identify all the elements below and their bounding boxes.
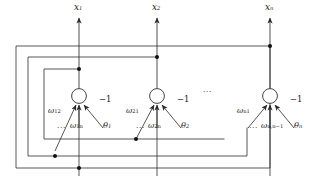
threshold-label-thetan: θn bbox=[294, 121, 302, 129]
output-label-x2: x2 bbox=[152, 3, 160, 12]
weight-label-w21: ω21 bbox=[126, 107, 139, 115]
neuron-input-stems bbox=[79, 106, 270, 176]
junction-bottom-outer bbox=[77, 166, 81, 170]
weight-label-w1n: ω1n bbox=[70, 122, 83, 130]
output-label-x1: x1 bbox=[74, 3, 82, 12]
inter-neuron-ellipsis: ... bbox=[203, 86, 212, 94]
threshold-label-theta1: θ1 bbox=[103, 121, 111, 129]
threshold-label-theta2: θ2 bbox=[181, 121, 189, 129]
hopfield-network-diagram: x1 x2 xn ω12 ... ω1n −1 θ1 ω21 ... ω2n −… bbox=[0, 0, 317, 176]
neuron-1-ellipsis: ... bbox=[57, 122, 66, 130]
neuron-2-threshold-arrow bbox=[162, 105, 181, 128]
neuron-n-body bbox=[263, 89, 278, 104]
bias-label-neuron-1: −1 bbox=[99, 95, 111, 103]
junction-x2-middle bbox=[155, 55, 159, 59]
junction-xn-outer bbox=[268, 44, 272, 48]
neuron-2-group bbox=[136, 89, 181, 139]
junction-bottom-inner bbox=[134, 137, 138, 141]
weight-label-wnn1: ωn,n−1 bbox=[261, 122, 283, 130]
neuron-1-threshold-arrow bbox=[84, 105, 103, 128]
neuron-2-ellipsis: ... bbox=[136, 122, 145, 130]
output-label-xn: xn bbox=[265, 3, 273, 12]
weight-label-w12: ω12 bbox=[48, 107, 61, 115]
neuron-1-body bbox=[72, 89, 87, 104]
weight-label-w2n: ω2n bbox=[148, 122, 161, 130]
junction-x1-inner bbox=[77, 67, 81, 71]
diagram-canvas bbox=[0, 0, 317, 176]
neuron-n-ellipsis: ... bbox=[249, 122, 258, 130]
neuron-2-body bbox=[150, 89, 165, 104]
junction-bottom-middle bbox=[53, 154, 57, 158]
bias-label-neuron-n: −1 bbox=[290, 95, 302, 103]
bias-label-neuron-2: −1 bbox=[177, 95, 189, 103]
weight-label-wn1: ωn1 bbox=[237, 107, 250, 115]
